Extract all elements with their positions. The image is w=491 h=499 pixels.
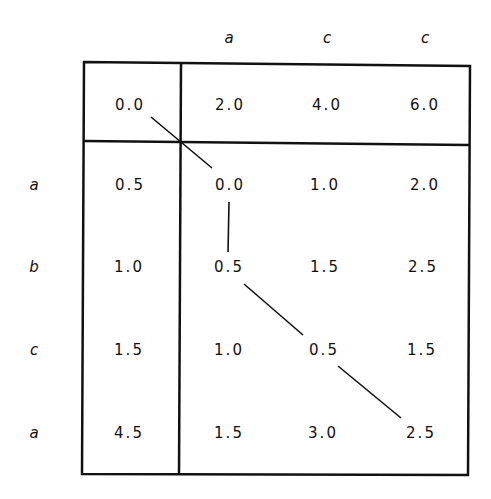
cell: 1.0 — [114, 258, 144, 276]
vertical-divider — [179, 63, 181, 474]
alignment-path — [151, 117, 401, 418]
cell: 1.5 — [407, 341, 437, 359]
cell: 2.0 — [215, 96, 245, 114]
cell: 0.0 — [115, 96, 145, 114]
row-label: c — [30, 341, 38, 359]
column-label: c — [323, 29, 331, 47]
cell: 0.5 — [214, 258, 244, 276]
cell: 1.5 — [214, 424, 244, 442]
cell: 0.0 — [215, 176, 245, 194]
horizontal-divider — [84, 141, 469, 145]
row-label: b — [29, 258, 39, 276]
cell: 0.5 — [309, 341, 339, 359]
cell: 3.0 — [308, 424, 338, 442]
cell: 4.0 — [312, 96, 342, 114]
cell: 1.0 — [310, 176, 340, 194]
cell: 0.5 — [115, 176, 145, 194]
row-label: a — [29, 176, 38, 194]
cell: 1.5 — [114, 341, 144, 359]
cell: 4.5 — [114, 424, 144, 442]
column-label: c — [421, 29, 429, 47]
cell: 1.5 — [310, 258, 340, 276]
cell: 6.0 — [410, 96, 440, 114]
cell: 1.0 — [214, 341, 244, 359]
cell: 2.5 — [408, 258, 438, 276]
column-label: a — [224, 29, 233, 47]
cell: 2.0 — [410, 176, 440, 194]
cell: 2.5 — [406, 424, 436, 442]
row-label: a — [29, 424, 38, 442]
